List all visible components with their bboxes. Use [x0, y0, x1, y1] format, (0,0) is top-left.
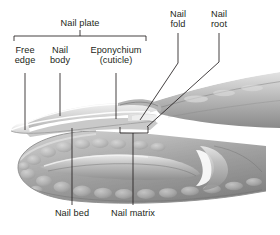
nail-anatomy-diagram	[0, 0, 280, 235]
nail-matrix-zone	[132, 115, 158, 121]
proximal-lobule	[241, 85, 263, 91]
proximal-lobule	[184, 96, 208, 103]
proximal-lobule	[213, 90, 235, 96]
